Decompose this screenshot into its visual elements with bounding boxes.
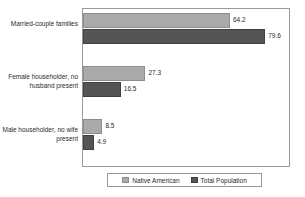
bar-row-native-american: 64.2 xyxy=(83,13,290,28)
bar-total-population[interactable] xyxy=(83,135,94,150)
chart-legend: Native American Total Population xyxy=(107,173,262,187)
legend-label: Total Population xyxy=(201,177,247,184)
bar-group-male-householder: 8.5 4.9 xyxy=(83,115,290,168)
bar-value-label: 64.2 xyxy=(233,16,246,23)
bar-row-native-american: 8.5 xyxy=(83,119,290,134)
bar-row-native-american: 27.3 xyxy=(83,66,290,81)
bar-value-label: 8.5 xyxy=(105,122,114,129)
bar-native-american[interactable] xyxy=(83,119,102,134)
bar-native-american[interactable] xyxy=(83,66,145,81)
legend-swatch-icon xyxy=(122,177,129,183)
legend-item-total-population[interactable]: Total Population xyxy=(191,177,247,184)
bar-group-female-householder: 27.3 16.5 xyxy=(83,62,290,115)
bar-total-population[interactable] xyxy=(83,29,265,44)
legend-swatch-icon xyxy=(191,177,198,183)
bar-value-label: 16.5 xyxy=(124,85,137,92)
legend-label: Native American xyxy=(132,177,179,184)
bar-row-total-population: 4.9 xyxy=(83,135,290,150)
category-label-female-householder: Female householder, no husband present xyxy=(0,73,78,90)
category-label-married-couple-families: Married-couple families xyxy=(0,20,78,29)
category-label-text: Married-couple families xyxy=(11,20,78,27)
bar-row-total-population: 16.5 xyxy=(83,82,290,97)
bar-value-label: 79.6 xyxy=(268,32,281,39)
bar-value-label: 27.3 xyxy=(148,69,161,76)
category-label-text: Female householder, no husband present xyxy=(8,73,78,89)
category-label-text: Male householder, no wife present xyxy=(2,126,78,142)
category-label-male-householder: Male householder, no wife present xyxy=(0,126,78,143)
bar-native-american[interactable] xyxy=(83,13,230,28)
bar-row-total-population: 79.6 xyxy=(83,29,290,44)
bar-chart: Married-couple families Female household… xyxy=(0,0,305,197)
bar-total-population[interactable] xyxy=(83,82,121,97)
legend-item-native-american[interactable]: Native American xyxy=(122,177,179,184)
bar-group-married-couple-families: 64.2 79.6 xyxy=(83,9,290,62)
bar-value-label: 4.9 xyxy=(97,138,106,145)
